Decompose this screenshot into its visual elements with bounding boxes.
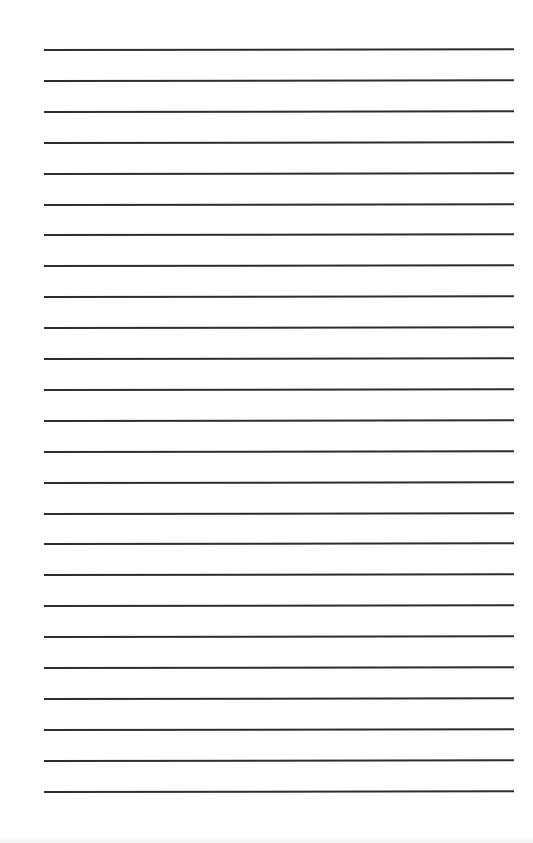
ruled-line <box>44 357 514 359</box>
ruled-line <box>44 48 514 50</box>
ruled-line <box>44 759 514 761</box>
ruled-line <box>44 728 514 730</box>
ruled-line <box>44 512 514 514</box>
ruled-line <box>44 543 514 545</box>
ruled-line <box>44 326 514 328</box>
ruled-line <box>44 481 514 483</box>
ruled-line <box>44 790 514 792</box>
ruled-line <box>44 450 514 452</box>
ruled-line <box>44 265 514 267</box>
ruled-line <box>44 110 514 112</box>
ruled-line <box>44 635 514 637</box>
ruled-line <box>44 666 514 668</box>
ruled-line <box>44 605 514 607</box>
ruled-line <box>44 388 514 390</box>
ruled-line <box>44 296 514 298</box>
ruled-line <box>44 172 514 174</box>
ruled-line <box>44 697 514 699</box>
lined-paper-page <box>0 0 533 843</box>
page-bottom-edge <box>0 837 533 843</box>
ruled-line <box>44 79 514 81</box>
ruled-line <box>44 234 514 236</box>
ruled-line <box>44 203 514 205</box>
ruled-line <box>44 574 514 576</box>
ruled-line <box>44 141 514 143</box>
ruled-line <box>44 419 514 421</box>
